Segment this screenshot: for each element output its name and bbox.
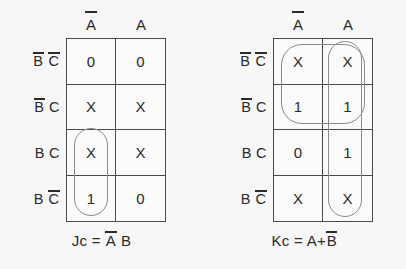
- row-label-b-cbar: BC: [8, 176, 66, 222]
- row-label-b-bar: B: [33, 53, 44, 69]
- caption-kc: Kc = A+B: [203, 232, 406, 249]
- row-labels: BC BC BC BC: [8, 38, 66, 222]
- row-label-c-bar: C: [255, 191, 267, 207]
- column-header-a-bar: A: [66, 12, 116, 38]
- kmap-cell[interactable]: X: [323, 176, 372, 222]
- row-label-b: B: [34, 191, 44, 207]
- column-header-a-bar-label: A: [292, 12, 303, 38]
- kmap-cell[interactable]: 1: [323, 85, 372, 131]
- kmap-cell[interactable]: 1: [67, 176, 116, 222]
- row-label-bbar-c: BC: [8, 84, 66, 130]
- kmap-cell[interactable]: 0: [116, 39, 165, 85]
- kmap-jc: A A BC BC BC BC 0 0 X X X X 1 0 Jc = A: [0, 0, 203, 269]
- row-label-b-cbar: BC: [215, 176, 273, 222]
- row-label-c-bar: C: [48, 191, 60, 207]
- caption-lhs: Jc: [72, 232, 88, 249]
- column-header-a-bar: A: [273, 12, 323, 38]
- kmap-grid-jc: 0 0 X X X X 1 0: [66, 38, 166, 222]
- kmap-cell[interactable]: 0: [116, 176, 165, 222]
- caption-a-bar: A: [105, 232, 116, 249]
- kmap-cell[interactable]: X: [116, 85, 165, 131]
- caption-lhs: Kc: [272, 232, 290, 249]
- row-label-bbar-cbar: BC: [8, 38, 66, 84]
- kmap-cell[interactable]: 1: [274, 85, 323, 131]
- caption-equals: =: [294, 232, 303, 249]
- kmap-grid-kc: X X 1 1 0 1 X X: [273, 38, 373, 222]
- column-header-a-label: A: [343, 16, 353, 33]
- row-label-c-bar: C: [255, 53, 267, 69]
- caption-equals: =: [92, 232, 101, 249]
- row-label-b: B: [35, 145, 45, 161]
- kmap-cell[interactable]: X: [274, 176, 323, 222]
- row-label-b-bar: B: [241, 99, 252, 115]
- caption-plus: +: [317, 232, 326, 249]
- kmap-cell[interactable]: 0: [274, 130, 323, 176]
- kmap-cell[interactable]: 1: [323, 130, 372, 176]
- column-header-a-label: A: [136, 16, 146, 33]
- row-label-b-bar: B: [34, 99, 45, 115]
- row-label-b-c: BC: [8, 130, 66, 176]
- row-label-c-bar: C: [48, 53, 60, 69]
- caption-a: A: [307, 232, 317, 249]
- kmap-cell[interactable]: X: [67, 85, 116, 131]
- column-headers: A A: [273, 12, 373, 38]
- row-label-c: C: [256, 145, 267, 161]
- row-label-c: C: [256, 99, 267, 115]
- row-label-b: B: [242, 145, 252, 161]
- column-header-a: A: [116, 12, 166, 38]
- column-headers: A A: [66, 12, 166, 38]
- row-label-bbar-c: BC: [215, 84, 273, 130]
- kmap-kc: A A BC BC BC BC X X 1 1 0 1 X X Kc =: [203, 0, 406, 269]
- row-label-b: B: [241, 191, 251, 207]
- row-label-b-c: BC: [215, 130, 273, 176]
- row-label-c: C: [49, 99, 60, 115]
- kmap-cell[interactable]: X: [323, 39, 372, 85]
- column-header-a: A: [323, 12, 373, 38]
- caption-b: B: [121, 232, 131, 249]
- kmap-cell[interactable]: X: [274, 39, 323, 85]
- caption-b-bar: B: [326, 232, 337, 249]
- kmap-cell[interactable]: X: [67, 130, 116, 176]
- kmap-cell[interactable]: X: [116, 130, 165, 176]
- row-label-c: C: [49, 145, 60, 161]
- kmap-cell[interactable]: 0: [67, 39, 116, 85]
- row-labels: BC BC BC BC: [215, 38, 273, 222]
- caption-jc: Jc = A B: [0, 232, 203, 249]
- row-label-bbar-cbar: BC: [215, 38, 273, 84]
- column-header-a-bar-label: A: [85, 12, 96, 38]
- row-label-b-bar: B: [240, 53, 251, 69]
